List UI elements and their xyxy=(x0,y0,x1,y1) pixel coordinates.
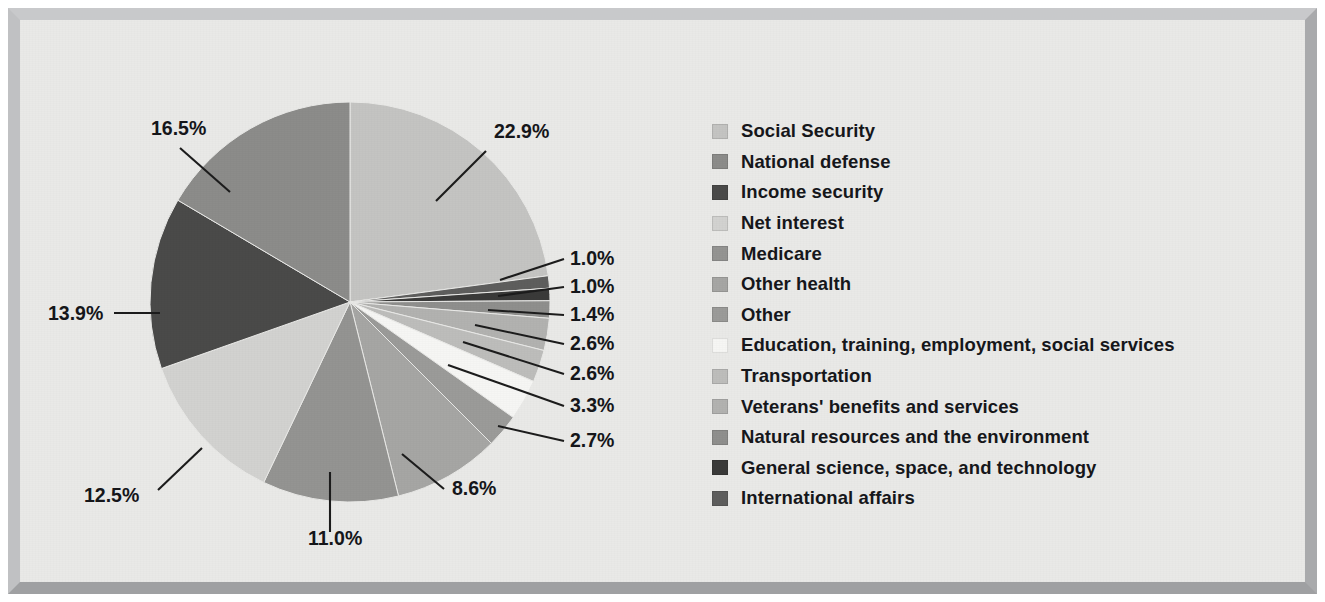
legend-item-label: General science, space, and technology xyxy=(741,457,1096,479)
legend-item[interactable]: Other health xyxy=(712,269,1272,300)
legend-item-label: Medicare xyxy=(741,243,822,265)
legend-item-label: Income security xyxy=(741,181,883,203)
legend-item-label: Net interest xyxy=(741,212,844,234)
legend-item[interactable]: Natural resources and the environment xyxy=(712,422,1272,453)
slice-percentage-label: 1.4% xyxy=(570,303,614,325)
callout-leader-line xyxy=(498,426,564,441)
slice-percentage-label: 2.7% xyxy=(570,429,614,451)
legend-swatch-icon xyxy=(712,124,728,139)
legend-swatch-icon xyxy=(712,369,728,384)
slice-percentage-label: 2.6% xyxy=(570,332,614,354)
legend-swatch-icon xyxy=(712,430,728,445)
legend-swatch-icon xyxy=(712,307,728,322)
legend-swatch-icon xyxy=(712,338,728,353)
legend-swatch-icon xyxy=(712,491,728,506)
legend-swatch-icon xyxy=(712,185,728,200)
figure-plate: Social Security 22.9%International affai… xyxy=(20,20,1305,582)
legend-item[interactable]: General science, space, and technology xyxy=(712,453,1272,484)
slice-percentage-label: 22.9% xyxy=(494,120,549,142)
legend-item-label: Education, training, employment, social … xyxy=(741,334,1175,356)
slice-percentage-label: 2.6% xyxy=(570,362,614,384)
legend-item[interactable]: Veterans' benefits and services xyxy=(712,391,1272,422)
pie-slices: Social Security 22.9%International affai… xyxy=(150,102,550,502)
legend-item[interactable]: Education, training, employment, social … xyxy=(712,330,1272,361)
legend-item-label: Natural resources and the environment xyxy=(741,426,1089,448)
chart-legend: Social SecurityNational defenseIncome se… xyxy=(712,116,1272,514)
legend-swatch-icon xyxy=(712,460,728,475)
legend-item[interactable]: Net interest xyxy=(712,208,1272,239)
legend-item[interactable]: National defense xyxy=(712,147,1272,178)
legend-item[interactable]: International affairs xyxy=(712,483,1272,514)
slice-percentage-label: 1.0% xyxy=(570,247,614,269)
legend-item[interactable]: Medicare xyxy=(712,238,1272,269)
slice-percentage-label: 3.3% xyxy=(570,394,614,416)
slice-percentage-label: 12.5% xyxy=(84,484,139,506)
slice-percentage-label: 11.0% xyxy=(308,527,362,549)
legend-swatch-icon xyxy=(712,399,728,414)
legend-item-label: Other xyxy=(741,304,791,326)
slice-percentage-label: 8.6% xyxy=(452,477,496,499)
legend-swatch-icon xyxy=(712,154,728,169)
legend-item-label: Transportation xyxy=(741,365,872,387)
legend-item-label: Veterans' benefits and services xyxy=(741,396,1019,418)
legend-item-label: International affairs xyxy=(741,487,915,509)
legend-swatch-icon xyxy=(712,216,728,231)
legend-item-label: Social Security xyxy=(741,120,875,142)
legend-item-label: National defense xyxy=(741,151,891,173)
figure-frame: Social Security 22.9%International affai… xyxy=(8,8,1317,594)
legend-item[interactable]: Income security xyxy=(712,177,1272,208)
legend-item[interactable]: Social Security xyxy=(712,116,1272,147)
legend-item[interactable]: Transportation xyxy=(712,361,1272,392)
legend-item[interactable]: Other xyxy=(712,300,1272,331)
legend-swatch-icon xyxy=(712,246,728,261)
legend-item-label: Other health xyxy=(741,273,851,295)
slice-percentage-label: 16.5% xyxy=(151,117,206,139)
callout-leader-line xyxy=(158,448,202,490)
slice-percentage-label: 1.0% xyxy=(570,275,614,297)
legend-swatch-icon xyxy=(712,277,728,292)
slice-percentage-label: 13.9% xyxy=(48,302,103,324)
